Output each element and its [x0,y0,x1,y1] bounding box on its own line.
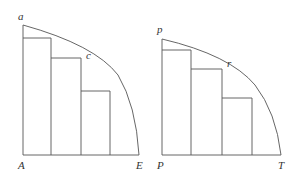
label-A: A [17,159,25,171]
right-curve [162,39,281,155]
label-E: E [135,159,143,171]
label-a: a [18,10,24,22]
left-figure: a c A E [17,10,143,171]
label-T: T [278,159,285,171]
label-c: c [86,49,91,61]
diagram-canvas: a c A E p r P T [0,0,299,178]
label-r: r [227,57,232,69]
label-p: p [156,23,163,35]
label-P: P [156,159,164,171]
right-figure: p r P T [156,23,285,171]
